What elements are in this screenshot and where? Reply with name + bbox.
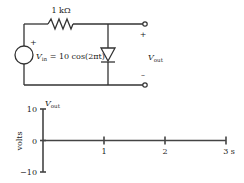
voltage-source-icon bbox=[15, 46, 33, 64]
source-label: Vin = 10 cos(2πt) bbox=[36, 52, 105, 62]
diagram-canvas: 1 kΩ + Vin = 10 cos(2πt) + Vout – Vout v… bbox=[0, 0, 244, 183]
output-label: Vout bbox=[148, 53, 164, 63]
x-tick-label: 2 bbox=[162, 147, 167, 156]
chart: Vout volts 100−10123 s bbox=[15, 99, 235, 177]
x-tick-label: 3 s bbox=[223, 147, 235, 156]
y-axis-title: Vout bbox=[45, 99, 61, 109]
source-plus-sign: + bbox=[30, 38, 37, 47]
y-tick-label: 0 bbox=[32, 137, 37, 146]
output-terminal-bottom bbox=[143, 83, 147, 87]
y-tick-label: 10 bbox=[27, 105, 37, 114]
y-axis-label: volts bbox=[15, 131, 24, 151]
resistor-label: 1 kΩ bbox=[51, 6, 70, 15]
resistor-icon bbox=[48, 19, 73, 29]
output-terminal-top bbox=[143, 22, 147, 26]
circuit: 1 kΩ + Vin = 10 cos(2πt) + Vout – bbox=[15, 6, 164, 87]
output-plus-sign: + bbox=[140, 30, 147, 39]
x-tick-label: 1 bbox=[101, 147, 106, 156]
output-minus-sign: – bbox=[141, 70, 145, 79]
y-tick-label: −10 bbox=[20, 168, 37, 177]
